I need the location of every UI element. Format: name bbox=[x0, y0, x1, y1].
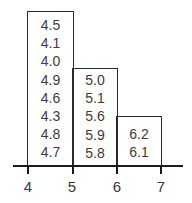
value: 5.1 bbox=[85, 89, 104, 107]
value: 4.1 bbox=[41, 34, 60, 52]
value: 4.9 bbox=[41, 71, 60, 89]
value: 5.8 bbox=[85, 144, 104, 162]
x-tick-label: 5 bbox=[68, 178, 76, 195]
value: 4.7 bbox=[41, 143, 60, 161]
value: 4.3 bbox=[41, 107, 60, 125]
x-tick-label: 6 bbox=[113, 178, 121, 195]
x-tick-label: 7 bbox=[157, 178, 165, 195]
x-axis bbox=[13, 165, 183, 167]
value: 5.0 bbox=[85, 71, 104, 89]
value: 5.6 bbox=[85, 107, 104, 125]
x-tick-4 bbox=[27, 165, 29, 174]
x-tick-7 bbox=[160, 165, 162, 174]
value: 4.0 bbox=[41, 52, 60, 70]
value: 6.2 bbox=[129, 125, 148, 143]
x-tick-label: 4 bbox=[24, 178, 32, 195]
bin-values-6-7: 6.2 6.1 bbox=[116, 125, 162, 161]
x-tick-5 bbox=[72, 165, 74, 174]
bin-values-4-5: 4.5 4.1 4.0 4.9 4.6 4.3 4.8 4.7 bbox=[27, 16, 74, 162]
value: 4.6 bbox=[41, 89, 60, 107]
value: 4.5 bbox=[41, 16, 60, 34]
value: 6.1 bbox=[129, 143, 148, 161]
x-tick-6 bbox=[116, 165, 118, 174]
bin-values-5-6: 5.0 5.1 5.6 5.9 5.8 bbox=[72, 71, 118, 162]
value: 4.8 bbox=[41, 125, 60, 143]
value: 5.9 bbox=[85, 126, 104, 144]
